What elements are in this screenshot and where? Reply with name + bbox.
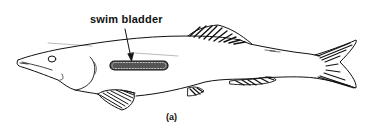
swim-bladder	[110, 61, 168, 70]
head-outline	[17, 60, 75, 90]
gill-cover	[76, 57, 95, 90]
body-outline-top	[18, 36, 320, 60]
label-arrow	[125, 29, 134, 61]
body-outline-bottom	[75, 77, 315, 96]
tail-fin	[315, 40, 356, 88]
pelvic-fin	[188, 87, 204, 96]
pectoral-fin	[98, 90, 135, 110]
figure-caption: (a)	[166, 112, 177, 122]
fish-diagram: swim bladder (a)	[0, 0, 374, 134]
eye	[48, 56, 56, 62]
fish-drawing	[0, 0, 374, 134]
swim-bladder-label: swim bladder	[90, 13, 163, 25]
